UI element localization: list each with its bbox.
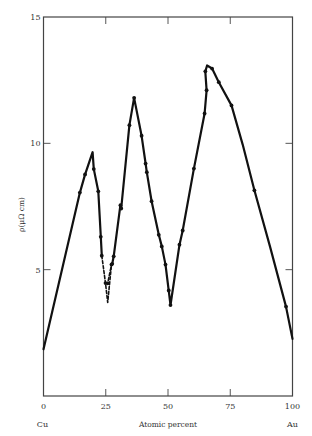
series-resistivity-continued xyxy=(112,66,292,339)
y-tick-label: 5 xyxy=(35,266,40,275)
data-point xyxy=(145,170,149,174)
data-point xyxy=(83,173,87,177)
x-tick-label: 25 xyxy=(101,402,111,411)
data-point xyxy=(99,235,103,239)
data-point xyxy=(181,229,185,233)
axis-labels: 025507510051015CuAuAtomic percentρ(μΩ cm… xyxy=(17,13,300,429)
data-point xyxy=(210,67,214,71)
x-tick-label: 0 xyxy=(41,402,46,411)
plot-border xyxy=(44,17,293,396)
axis-ticks xyxy=(44,17,293,396)
data-point xyxy=(78,191,82,195)
series-resistivity-ordered-dip xyxy=(102,256,112,303)
data-point xyxy=(230,104,234,108)
data-point xyxy=(96,189,100,193)
data-point xyxy=(150,199,154,203)
plot-frame xyxy=(44,17,293,396)
data-point xyxy=(144,162,148,166)
x-axis-title: Atomic percent xyxy=(138,420,197,429)
data-point xyxy=(119,207,123,211)
data-point xyxy=(92,167,96,171)
data-point xyxy=(128,123,132,127)
data-point xyxy=(203,112,207,116)
resistivity-chart: 025507510051015CuAuAtomic percentρ(μΩ cm… xyxy=(0,0,312,436)
data-point xyxy=(253,188,257,192)
series-resistivity xyxy=(44,152,102,349)
data-point xyxy=(203,69,207,73)
data-point xyxy=(284,305,288,309)
data-point xyxy=(169,303,173,307)
data-point xyxy=(217,80,221,84)
data-point xyxy=(178,243,182,247)
x-tick-label: 75 xyxy=(225,402,235,411)
x-end-label-right: Au xyxy=(286,420,298,429)
data-point xyxy=(157,233,161,237)
y-axis-title: ρ(μΩ cm) xyxy=(17,197,26,232)
data-point xyxy=(192,167,196,171)
data-point xyxy=(160,245,164,249)
x-end-label-left: Cu xyxy=(37,420,48,429)
x-tick-label: 100 xyxy=(285,402,300,411)
data-point xyxy=(106,281,110,285)
data-point xyxy=(164,263,168,267)
x-tick-label: 50 xyxy=(163,402,173,411)
data-point xyxy=(140,134,144,138)
y-tick-label: 15 xyxy=(30,13,40,22)
data-point xyxy=(110,262,114,266)
y-tick-label: 10 xyxy=(30,139,40,148)
data-point xyxy=(132,96,136,100)
data-point xyxy=(100,254,104,258)
data-point xyxy=(205,88,209,92)
data-point xyxy=(119,203,123,207)
data-lines xyxy=(44,66,293,350)
data-point xyxy=(167,288,171,292)
data-point xyxy=(112,254,116,258)
